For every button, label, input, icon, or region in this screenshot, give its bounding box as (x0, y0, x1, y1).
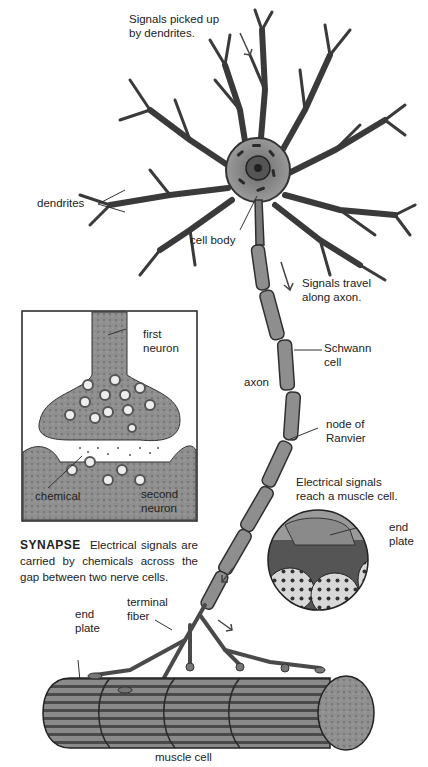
label-line: neuron (143, 342, 179, 356)
label-line: end (389, 521, 414, 535)
synapse-caption: SYNAPSE Electrical signals are carried b… (20, 537, 198, 585)
label-line: node of (326, 418, 366, 432)
label-line: cell (324, 356, 371, 370)
label-node-of-ranvier: node of Ranvier (326, 418, 366, 445)
label-line: Signals picked up (129, 13, 219, 27)
label-line: Signals travel (302, 277, 371, 291)
label-end-plate: end plate (75, 608, 100, 635)
label-schwann-cell: Schwann cell (324, 342, 371, 369)
label-line: plate (389, 535, 414, 549)
label-line: Schwann (324, 342, 371, 356)
label-line: first (143, 328, 179, 342)
label-dendrites: dendrites (37, 197, 84, 211)
caption-title: SYNAPSE (20, 538, 81, 552)
label-line: terminal (127, 596, 168, 610)
neuron-illustration (0, 0, 428, 767)
label-line: fiber (127, 610, 168, 624)
label-signals-axon: Signals travel along axon. (302, 277, 371, 304)
label-line: second (141, 488, 178, 502)
label-line: by dendrites. (129, 27, 219, 41)
label-axon: axon (244, 376, 269, 390)
label-line: reach a muscle cell. (296, 490, 398, 504)
label-cell-body: cell body (190, 234, 235, 248)
label-first-neuron: first neuron (143, 328, 179, 355)
label-muscle-signal: Electrical signals reach a muscle cell. (296, 476, 398, 503)
label-end-plate-inset: end plate (389, 521, 414, 548)
label-line: end (75, 608, 100, 622)
muscle-cell (43, 663, 374, 750)
cell-body (226, 138, 290, 202)
label-line: plate (75, 622, 100, 636)
label-terminal-fiber: terminal fiber (127, 596, 168, 623)
label-second-neuron: second neuron (141, 488, 178, 515)
label-line: Electrical signals (296, 476, 398, 490)
label-line: neuron (141, 502, 178, 516)
end-plate-inset (266, 510, 386, 617)
label-signals-dendrites: Signals picked up by dendrites. (129, 13, 219, 40)
label-line: Ranvier (326, 432, 366, 446)
label-muscle-cell: muscle cell (155, 751, 212, 765)
label-line: along axon. (302, 291, 371, 305)
label-chemical: chemical (35, 490, 80, 504)
